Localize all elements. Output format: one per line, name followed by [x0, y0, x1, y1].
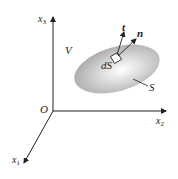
x2-axis-label: x2	[156, 116, 164, 128]
surface-element-label: dS	[101, 60, 112, 71]
surface-label: S	[149, 82, 155, 93]
x1-axis	[24, 111, 53, 163]
x1-axis-label: x1	[12, 155, 20, 167]
x2-sub: 2	[160, 120, 164, 128]
x3-sub: 3	[42, 18, 46, 26]
origin-label: O	[40, 104, 48, 115]
x1-sub: 1	[16, 159, 20, 167]
x3-axis-label: x3	[38, 14, 46, 26]
volume-label: V	[65, 45, 72, 56]
normal-vector-label: n	[137, 28, 143, 39]
traction-vector-label: t	[122, 22, 125, 33]
